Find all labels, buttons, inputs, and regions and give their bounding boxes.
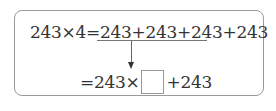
lhs-expression: 243×4: [30, 22, 86, 42]
answer-blank-box[interactable]: [141, 70, 164, 94]
line2-suffix: +243: [166, 72, 212, 92]
arrowhead-icon: [128, 62, 134, 69]
underline: [97, 40, 207, 41]
arrow-down-icon: [131, 41, 132, 63]
equals-sign: =: [86, 22, 100, 42]
underlined-sum: 243+243+243: [100, 22, 223, 42]
equation-line-2: =243× +243: [80, 70, 212, 94]
line2-prefix: =243×: [80, 72, 139, 92]
remaining-sum: +243: [223, 22, 269, 42]
equation-line-1: 243×4=243+243+243+243: [30, 22, 268, 42]
